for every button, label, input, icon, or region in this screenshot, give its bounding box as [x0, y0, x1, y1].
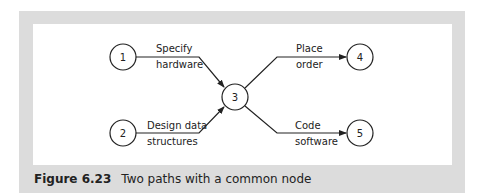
edge-label-specify: Specify: [156, 43, 192, 54]
node-1-label: 1: [120, 52, 126, 63]
network-diagram: Specify hardware Design data structures …: [0, 0, 479, 193]
node-3: 3: [222, 84, 248, 110]
node-2: 2: [110, 120, 136, 146]
node-3-label: 3: [232, 92, 238, 103]
edge-label-structures: structures: [147, 136, 198, 147]
edge-label-code: Code: [295, 120, 321, 131]
node-2-label: 2: [120, 128, 126, 139]
node-4: 4: [347, 44, 373, 70]
figure-caption: Figure 6.23Two paths with a common node: [34, 172, 311, 186]
node-5: 5: [347, 120, 373, 146]
edge-label-software: software: [295, 136, 338, 147]
node-5-label: 5: [357, 128, 363, 139]
edge-label-place: Place: [296, 43, 323, 54]
edge-label-hardware: hardware: [156, 59, 203, 70]
edge-label-design-data: Design data: [147, 120, 207, 131]
node-1: 1: [110, 44, 136, 70]
caption-text: Two paths with a common node: [121, 172, 311, 186]
edge-label-order: order: [296, 59, 324, 70]
node-4-label: 4: [357, 52, 363, 63]
figure-number: Figure 6.23: [34, 172, 111, 186]
